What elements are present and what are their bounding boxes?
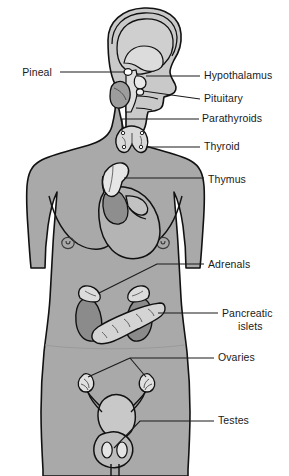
label-pancreatic-islets-line2: islets xyxy=(238,320,263,332)
label-thymus: Thymus xyxy=(208,173,246,185)
right-ovary xyxy=(139,374,154,392)
label-hypothalamus: Hypothalamus xyxy=(204,69,272,81)
label-testes: Testes xyxy=(218,414,249,426)
label-parathyroids: Parathyroids xyxy=(202,112,262,124)
endocrine-system-diagram: Pineal Hypothalamus Pituitary Parathyroi… xyxy=(0,0,289,476)
left-testis xyxy=(102,442,112,458)
label-ovaries: Ovaries xyxy=(218,351,255,363)
label-pituitary: Pituitary xyxy=(204,92,243,104)
label-pancreatic-islets-line1: Pancreatic xyxy=(222,307,273,319)
pituitary-gland xyxy=(136,89,143,95)
label-thyroid: Thyroid xyxy=(204,140,240,152)
anatomy-illustration: Pineal Hypothalamus Pituitary Parathyroi… xyxy=(0,0,289,476)
hypothalamus-gland xyxy=(134,76,146,89)
cerebellum-shape xyxy=(110,81,130,108)
pineal-gland xyxy=(124,69,132,76)
left-ovary xyxy=(78,374,93,392)
label-pineal: Pineal xyxy=(22,66,52,78)
right-testis xyxy=(117,442,127,458)
label-adrenals: Adrenals xyxy=(208,258,250,270)
